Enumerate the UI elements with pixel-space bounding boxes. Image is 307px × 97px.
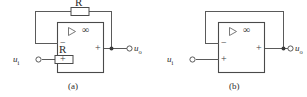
circuit-a-group xyxy=(36,8,133,73)
figure-canvas: R R ui uo − + + ∞ (a) ui uo − + + ∞ (b) xyxy=(0,0,307,97)
opamp-b-minus-terminal-label: − xyxy=(221,38,227,48)
circuit-b-group xyxy=(190,12,293,73)
output-label-a: uo xyxy=(134,44,142,55)
output-terminal-a[interactable] xyxy=(127,46,132,51)
input-terminal-b[interactable] xyxy=(190,57,195,62)
feedback-resistor-a-label: R xyxy=(75,0,82,8)
input-label-a-sub: i xyxy=(18,59,20,66)
input-terminal-a[interactable] xyxy=(36,57,41,62)
opamp-a-output-terminal-label: + xyxy=(95,43,101,53)
output-label-b-sub: o xyxy=(300,48,303,55)
input-label-b-sub: i xyxy=(172,59,174,66)
caption-a: (a) xyxy=(68,82,78,91)
output-junction-dot-b xyxy=(282,47,286,51)
opamp-a-plus-terminal-label: + xyxy=(60,54,66,64)
opamp-a-gain-symbol: ∞ xyxy=(82,25,89,35)
output-terminal-b[interactable] xyxy=(288,46,293,51)
opamp-b-gain-symbol: ∞ xyxy=(243,25,250,35)
opamp-b-plus-terminal-label: + xyxy=(221,54,227,64)
input-label-b: ui xyxy=(167,55,173,66)
input-label-a: ui xyxy=(13,55,19,66)
output-label-b: uo xyxy=(295,44,303,55)
caption-b: (b) xyxy=(229,82,240,91)
output-junction-dot-a xyxy=(110,47,114,51)
opamp-a-minus-terminal-label: − xyxy=(60,38,66,48)
opamp-b-output-terminal-label: + xyxy=(256,43,262,53)
feedback-resistor-a-body xyxy=(71,8,89,16)
output-label-a-sub: o xyxy=(139,48,142,55)
